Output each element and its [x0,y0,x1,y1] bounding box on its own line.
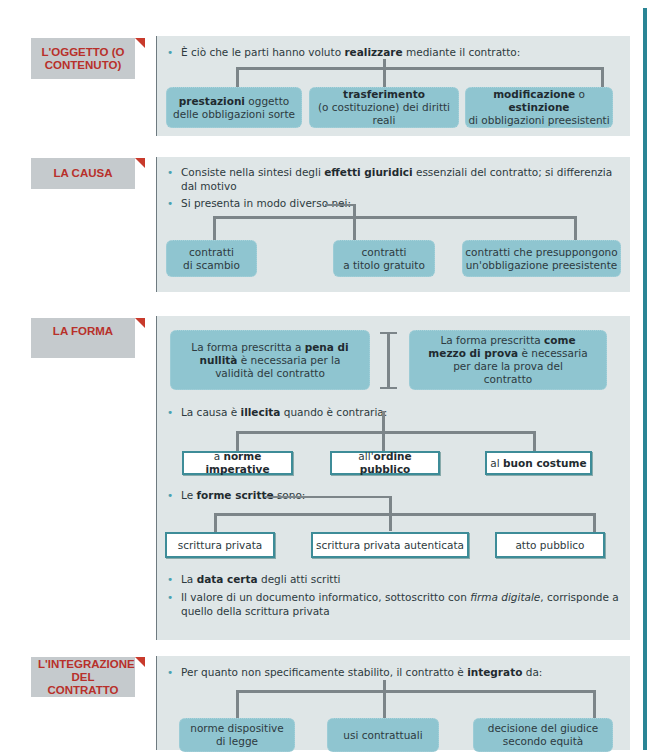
connector [236,690,596,693]
box-norme-dispositive: norme dispositivedi legge [179,718,295,752]
connector [353,204,356,240]
separator-icon [387,332,390,389]
panel-forma: La forma prescritta a pena di nullità è … [156,316,630,640]
corner-flag-icon [135,158,145,168]
box-ordine-pubblico: all'ordine pubblico [330,451,440,475]
box-gratuito: contrattia titolo gratuito [333,240,435,277]
label-text: L'OGGETTO (O CONTENUTO) [38,46,128,72]
bullet-forme-scritte: Le forme scritte sono: [167,488,620,502]
box-pena-nullita: La forma prescritta a pena di nullità è … [170,330,370,390]
box-buon-costume: al buon costume [485,451,592,475]
bullet-effetti: Consiste nella sintesi degli effetti giu… [167,165,620,193]
box-prestazioni: prestazioni oggettodelle obbligazioni so… [166,87,302,128]
connector [213,216,216,241]
label-text: L'INTEGRAZIONE DEL CONTRATTO [38,658,128,697]
corner-flag-icon [135,318,145,328]
panel-causa: Consiste nella sintesi degli effetti giu… [156,157,630,292]
connector [236,67,604,70]
corner-flag-icon [135,38,145,48]
section-label-forma: LA FORMA [31,318,135,358]
section-label-integrazione: L'INTEGRAZIONE DEL CONTRATTO [31,657,135,697]
box-scrittura-autenticata: scrittura privata autenticata [311,532,469,558]
label-text: LA CAUSA [54,167,113,180]
box-preesistente: contratti che presuppongonoun'obbligazio… [462,240,621,277]
corner-flag-icon [135,657,145,667]
bullet-presenta: Si presenta in modo diverso nei: [167,196,620,210]
separator-icon [380,387,397,389]
section-label-causa: LA CAUSA [31,158,135,189]
box-scambio: contrattidi scambio [166,240,257,277]
box-norme-imperative: a norme imperative [182,451,293,475]
box-atto-pubblico: atto pubblico [495,532,605,558]
bullet-illecita: La causa è illecita quando è contraria: [167,405,620,419]
bullet-oggetto: È ciò che le parti hanno voluto realizza… [167,45,620,59]
box-scrittura-privata: scrittura privata [165,532,275,558]
separator-icon [380,332,397,334]
connector [593,690,596,720]
box-trasferimento: trasferimento(o costituzione) dei diritt… [309,87,459,128]
connector [236,431,536,434]
label-text: LA FORMA [53,325,113,338]
connector [213,216,577,219]
connector [383,680,386,720]
box-usi-contrattuali: usi contrattuali [327,718,439,752]
box-modificazione: modificazione o estinzionedi obbligazion… [465,87,613,128]
connector [265,496,391,498]
panel-oggetto: È ciò che le parti hanno voluto realizza… [156,36,630,136]
box-mezzo-prova: La forma prescritta come mezzo di prova … [409,330,607,390]
connector [214,513,596,516]
bullet-firma-digitale: Il valore di un documento informatico, s… [167,590,620,618]
connector [574,216,577,241]
page-side-rule [643,8,647,750]
connector [325,204,355,206]
section-label-oggetto: L'OGGETTO (O CONTENUTO) [31,38,135,79]
connector [593,513,596,533]
connector [214,513,217,533]
connector [533,431,536,453]
bullet-data-certa: La data certa degli atti scritti [167,572,620,586]
connector [236,690,239,720]
panel-integrazione: Per quanto non specificamente stabilito,… [156,656,630,750]
bullet-integrato: Per quanto non specificamente stabilito,… [167,665,620,679]
box-decisione-giudice: decisione del giudicesecondo equità [473,718,613,752]
